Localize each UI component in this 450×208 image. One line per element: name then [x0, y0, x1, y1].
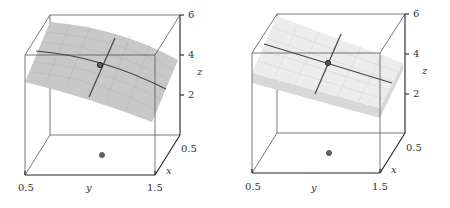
plot-canvas-left: [0, 0, 225, 208]
surface-plot-right: 0.5 1.5 y 0.5 x 6 4 2 z: [225, 0, 450, 208]
y-tick-min: 0.5: [245, 182, 261, 192]
z-tick-2: 2: [188, 90, 194, 100]
z-axis-label: z: [197, 67, 202, 77]
plot-canvas-right: [225, 0, 450, 208]
floor-point: [99, 152, 104, 157]
y-tick-min: 0.5: [18, 183, 34, 193]
y-axis-label: y: [311, 183, 317, 193]
x-tick: 0.5: [181, 144, 197, 154]
x-tick: 0.5: [406, 143, 422, 153]
marked-point: [97, 62, 102, 67]
x-axis-label: x: [166, 166, 172, 176]
x-axis-label: x: [391, 165, 397, 175]
floor-point: [326, 150, 331, 155]
z-axis-label: z: [422, 66, 427, 76]
z-tick-6: 6: [188, 10, 194, 20]
surface-plot-left: 0.5 1.5 y 0.5 x 6 4 2 z: [0, 0, 225, 208]
y-axis-label: y: [86, 183, 92, 193]
z-tick-4: 4: [188, 50, 194, 60]
marked-point: [325, 60, 330, 65]
y-tick-max: 1.5: [147, 183, 163, 193]
z-tick-6: 6: [413, 9, 419, 19]
y-tick-max: 1.5: [372, 182, 388, 192]
z-tick-4: 4: [413, 49, 419, 59]
z-tick-2: 2: [413, 89, 419, 99]
